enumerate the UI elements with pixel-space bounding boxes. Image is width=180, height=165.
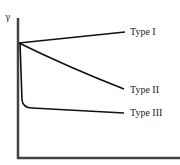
y-axis-label: γ — [5, 12, 10, 22]
label-type-1: Type I — [130, 26, 156, 37]
curve-type-3 — [20, 43, 124, 113]
survivorship-diagram: γ Type I Type II Type III — [0, 0, 180, 165]
label-type-2: Type II — [130, 84, 159, 95]
plot-area — [0, 0, 180, 165]
curve-type-1 — [19, 32, 125, 43]
label-type-3: Type III — [130, 107, 162, 118]
curve-type-2 — [19, 43, 124, 89]
